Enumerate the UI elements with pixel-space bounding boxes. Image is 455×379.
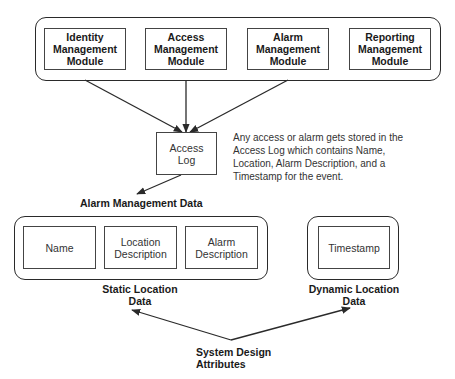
dynamic-location-caption: Dynamic Location Data [298,283,410,307]
alarm-management-module: Alarm Management Module [247,28,329,70]
caption-line: Static Location [80,283,200,295]
caption-line: Dynamic Location [298,283,410,295]
annotation-line: Any access or alarm gets stored in the [233,131,403,144]
arrow-log-to-alarm-data [137,175,181,194]
arrow-identity-to-log [85,80,182,132]
location-description-label-line: Location [114,236,167,248]
access-log-label-line: Access [170,142,204,154]
timestamp-label: Timestamp [328,242,380,254]
caption-line: Data [80,295,200,307]
module-label-line: Access [154,31,218,43]
alarm-description-box: Alarm Description [185,226,258,269]
access-log-box: Access Log [156,132,217,175]
module-label-line: Management [358,43,422,55]
name-label: Name [45,242,73,254]
reporting-management-module: Reporting Management Module [349,28,431,70]
system-design-line: System Design [196,346,271,358]
module-label-line: Alarm [256,31,320,43]
module-label-line: Management [53,43,117,55]
name-box: Name [23,226,96,269]
location-description-box: Location Description [104,226,177,269]
alarm-management-data-title: Alarm Management Data [80,197,203,209]
annotation-line: Access Log which contains Name, [233,144,403,157]
timestamp-box: Timestamp [318,226,390,269]
module-label-line: Module [256,55,320,67]
location-description-label-line: Description [114,248,167,260]
caption-line: Data [298,295,410,307]
module-label-line: Module [358,55,422,67]
module-label-line: Identity [53,31,117,43]
alarm-description-label-line: Description [195,248,248,260]
system-design-attributes: System Design Attributes [196,346,271,370]
arrow-alarm-to-log [190,80,288,132]
access-management-module: Access Management Module [145,28,227,70]
arrow-system-to-dynamic [231,308,350,340]
module-label-line: Management [154,43,218,55]
module-label-line: Management [256,43,320,55]
alarm-description-label-line: Alarm [195,236,248,248]
arrow-system-to-static [132,310,231,340]
annotation-line: Location, Alarm Description, and a [233,157,403,170]
module-label-line: Module [154,55,218,67]
module-label-line: Reporting [358,31,422,43]
access-log-annotation: Any access or alarm gets stored in the A… [233,131,403,183]
annotation-line: Timestamp for the event. [233,170,403,183]
identity-management-module: Identity Management Module [44,28,126,70]
module-label-line: Module [53,55,117,67]
access-log-label-line: Log [170,154,204,166]
static-location-caption: Static Location Data [80,283,200,307]
system-design-line: Attributes [196,358,271,370]
